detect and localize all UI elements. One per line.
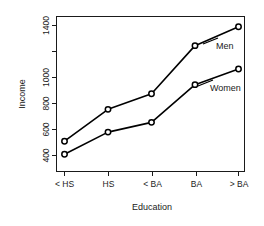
y-axis-tick-labels: 400 600 800 1000 1400 — [41, 16, 51, 163]
chart-canvas: 400 600 800 1000 1400 Income < HS HS < B… — [0, 0, 264, 226]
y-axis-title: Income — [17, 79, 27, 109]
y-tick-label-1400: 1400 — [41, 16, 51, 35]
data-point-women-ba — [192, 82, 197, 87]
y-tick-label-400: 400 — [41, 148, 51, 162]
data-point-women-hs — [62, 152, 67, 157]
data-point-men-hs — [62, 139, 67, 144]
x-tick-label-lt-ba: < BA — [143, 179, 162, 189]
y-axis-ticks — [52, 26, 57, 156]
data-point-men-hs — [105, 107, 110, 112]
x-axis-ticks — [65, 172, 239, 177]
data-point-women-hs — [105, 129, 110, 134]
y-tick-label-800: 800 — [41, 96, 51, 110]
y-tick-label-600: 600 — [41, 122, 51, 136]
x-axis-tick-labels: < HS HS < BA BA > BA — [55, 179, 249, 189]
x-tick-label-ba: BA — [191, 179, 203, 189]
y-tick-label-1000: 1000 — [41, 68, 51, 87]
data-point-men-ba — [192, 43, 197, 48]
x-tick-label-gt-ba: > BA — [230, 179, 249, 189]
income-by-education-chart: 400 600 800 1000 1400 Income < HS HS < B… — [0, 0, 264, 226]
x-axis-title: Education — [132, 202, 172, 212]
data-point-men-ba — [236, 24, 241, 29]
series-label-men: Men — [216, 41, 234, 51]
data-point-men-ba — [149, 91, 154, 96]
data-point-women-ba — [236, 66, 241, 71]
x-tick-label-hs: HS — [103, 179, 115, 189]
series-women — [62, 66, 241, 157]
x-tick-label-lt-hs: < HS — [55, 179, 74, 189]
data-point-women-ba — [149, 120, 154, 125]
series-line-women — [65, 69, 239, 154]
series-label-women: Women — [210, 83, 241, 93]
